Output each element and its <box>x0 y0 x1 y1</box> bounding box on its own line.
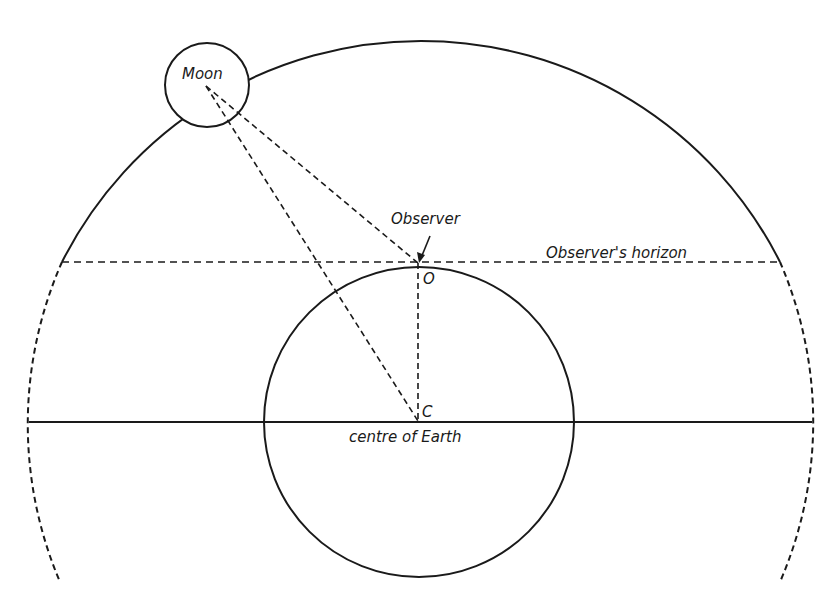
point-o-label: O <box>423 270 435 288</box>
moon-parallax-diagram: Moon Observer Observer's horizon O C cen… <box>0 0 830 597</box>
moon-to-observer-line <box>206 86 418 263</box>
horizon-label: Observer's horizon <box>546 244 687 262</box>
moon-label: Moon <box>182 65 223 83</box>
moon-circle <box>165 43 249 127</box>
observer-label: Observer <box>391 210 461 228</box>
moon-to-centre-line <box>206 86 418 421</box>
centre-of-earth-label: centre of Earth <box>349 428 461 446</box>
point-c-label: C <box>422 403 433 421</box>
